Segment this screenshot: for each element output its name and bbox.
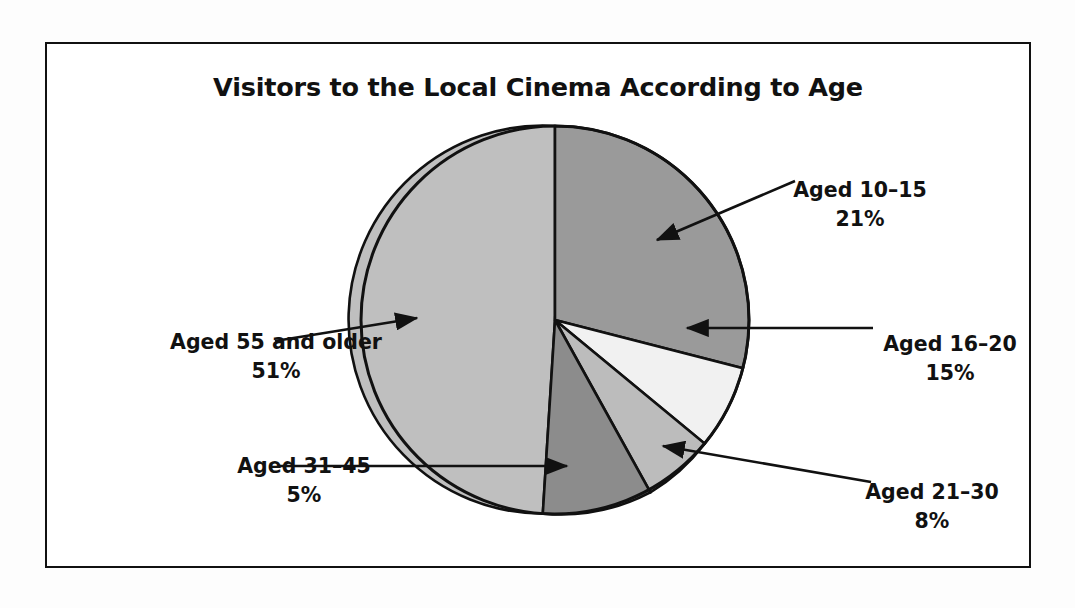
callout-aged-21-30[interactable]: Aged 21–30 8%: [847, 478, 1017, 536]
leader-line-aged-21-30: [663, 446, 871, 482]
callout-aged-10-15[interactable]: Aged 10–15 21%: [775, 176, 945, 234]
callout-aged-31-45-name: Aged 31–45: [237, 454, 371, 478]
callout-aged-55-and-older[interactable]: Aged 55 and older 51%: [145, 328, 407, 386]
callout-aged-10-15-percent: 21%: [775, 205, 945, 234]
callout-aged-55-and-older-name: Aged 55 and older: [170, 330, 382, 354]
callout-aged-16-20[interactable]: Aged 16–20 15%: [865, 330, 1035, 388]
callout-aged-16-20-percent: 15%: [865, 359, 1035, 388]
callout-aged-31-45-percent: 5%: [209, 481, 399, 510]
figure-page: Visitors to the Local Cinema According t…: [0, 0, 1075, 608]
callout-aged-21-30-percent: 8%: [847, 507, 1017, 536]
callout-aged-21-30-name: Aged 21–30: [865, 480, 999, 504]
figure-frame: Visitors to the Local Cinema According t…: [45, 42, 1031, 568]
callout-aged-10-15-name: Aged 10–15: [793, 178, 927, 202]
callout-aged-31-45[interactable]: Aged 31–45 5%: [209, 452, 399, 510]
callout-aged-55-and-older-percent: 51%: [145, 357, 407, 386]
callout-aged-16-20-name: Aged 16–20: [883, 332, 1017, 356]
